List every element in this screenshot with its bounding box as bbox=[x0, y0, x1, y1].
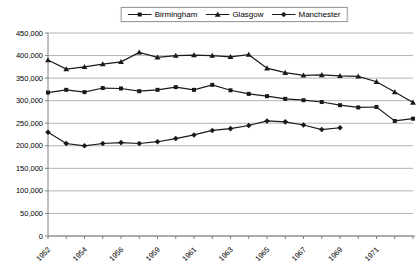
svg-text:1969: 1969 bbox=[326, 245, 344, 263]
svg-text:1959: 1959 bbox=[144, 245, 162, 263]
svg-text:1971: 1971 bbox=[363, 245, 381, 263]
legend-item-manchester: Manchester bbox=[272, 10, 341, 19]
svg-text:1954: 1954 bbox=[71, 245, 89, 263]
population-line-chart: 050,000100,000150,000200,000250,000300,0… bbox=[0, 0, 420, 277]
legend-label-manchester: Manchester bbox=[299, 10, 341, 19]
svg-text:200,000: 200,000 bbox=[16, 141, 43, 150]
svg-text:300,000: 300,000 bbox=[16, 96, 43, 105]
svg-text:1956: 1956 bbox=[107, 245, 125, 263]
svg-text:1967: 1967 bbox=[290, 245, 308, 263]
svg-text:250,000: 250,000 bbox=[16, 119, 43, 128]
birmingham-series-marker-icon bbox=[128, 10, 152, 19]
svg-text:0: 0 bbox=[39, 232, 43, 241]
svg-text:1961: 1961 bbox=[180, 245, 198, 263]
svg-text:1963: 1963 bbox=[217, 245, 235, 263]
glasgow-series-marker-icon bbox=[205, 10, 229, 19]
chart-legend: Birmingham Glasgow Manchester bbox=[121, 7, 348, 22]
manchester-series-marker-icon bbox=[272, 10, 296, 19]
svg-text:1952: 1952 bbox=[34, 245, 52, 263]
svg-text:400,000: 400,000 bbox=[16, 51, 43, 60]
svg-text:350,000: 350,000 bbox=[16, 74, 43, 83]
svg-text:450,000: 450,000 bbox=[16, 29, 43, 38]
legend-item-glasgow: Glasgow bbox=[205, 10, 263, 19]
svg-text:1965: 1965 bbox=[253, 245, 271, 263]
svg-text:150,000: 150,000 bbox=[16, 164, 43, 173]
legend-label-birmingham: Birmingham bbox=[155, 10, 198, 19]
svg-text:50,000: 50,000 bbox=[20, 209, 43, 218]
legend-item-birmingham: Birmingham bbox=[128, 10, 198, 19]
svg-text:100,000: 100,000 bbox=[16, 186, 43, 195]
legend-label-glasgow: Glasgow bbox=[232, 10, 263, 19]
chart-plot-area: 050,000100,000150,000200,000250,000300,0… bbox=[0, 0, 420, 277]
